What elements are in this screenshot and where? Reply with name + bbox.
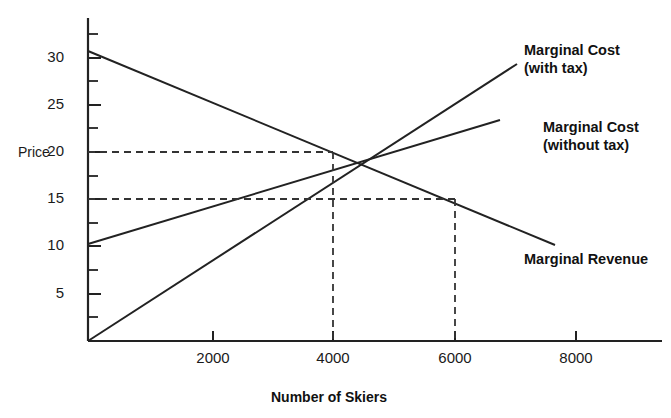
series-label-marginal-revenue: Marginal Revenue [524, 250, 648, 268]
x-axis-ticks [213, 331, 576, 341]
x-tick-label-2000: 2000 [178, 349, 248, 366]
series-label-mc-with-tax-line2: (with tax) [524, 59, 620, 77]
y-tick-label-10: 10 [24, 236, 64, 253]
x-tick-label-6000: 6000 [420, 349, 490, 366]
series-line-marginal-revenue [88, 51, 555, 245]
y-axis-title: Price [18, 144, 50, 160]
y-tick-label-30: 30 [24, 48, 64, 65]
series-label-marginal-cost-without-tax: Marginal Cost (without tax) [543, 118, 639, 154]
y-axis-minor-ticks [88, 34, 98, 317]
chart-container: 30 25 20 15 10 5 Price 2000 4000 6000 80… [0, 0, 671, 418]
x-tick-label-4000: 4000 [298, 349, 368, 366]
series-label-marginal-revenue-text: Marginal Revenue [524, 250, 648, 268]
series-line-marginal-cost-without-tax [88, 120, 500, 244]
y-tick-label-25: 25 [24, 95, 64, 112]
y-tick-label-15: 15 [24, 189, 64, 206]
series-label-marginal-cost-with-tax: Marginal Cost (with tax) [524, 41, 620, 77]
series-label-mc-with-tax-line1: Marginal Cost [524, 41, 620, 59]
y-tick-label-5: 5 [24, 284, 64, 301]
x-axis-title: Number of Skiers [271, 389, 387, 405]
x-tick-label-8000: 8000 [541, 349, 611, 366]
series-label-mc-without-tax-line2: (without tax) [543, 136, 639, 154]
series-label-mc-without-tax-line1: Marginal Cost [543, 118, 639, 136]
